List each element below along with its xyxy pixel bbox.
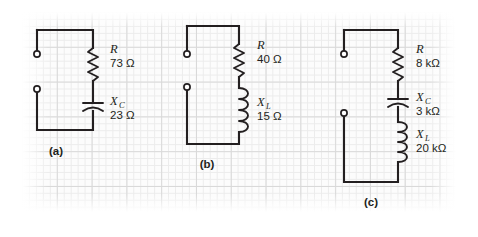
resistor-zigzag-icon xyxy=(393,48,403,81)
resistor-zigzag-icon xyxy=(234,44,244,77)
circuit-a-top-wire xyxy=(37,30,93,48)
circuit-a-capacitor-value: 23 Ω xyxy=(110,109,135,121)
circuit-a-panel-label: (a) xyxy=(49,145,63,157)
circuit-c-terminal-top[interactable] xyxy=(341,51,347,57)
capacitor-curved-icon xyxy=(388,99,408,107)
circuit-c-resistor-symbol: R xyxy=(415,42,424,56)
circuit-a-resistor-value: 73 Ω xyxy=(110,57,135,69)
circuit-b-resistor-value: 40 Ω xyxy=(257,53,282,65)
circuit-c-resistor-value: 8 kΩ xyxy=(416,57,440,69)
circuit-b-terminal-top[interactable] xyxy=(184,51,190,57)
circuit-a-resistor-symbol: R xyxy=(109,42,118,56)
circuit-c-inductor-value: 20 kΩ xyxy=(416,142,447,154)
circuit-c: R 8 kΩ X C 3 kΩ X L 20 kΩ (c) xyxy=(341,30,447,208)
inductor-coil-icon xyxy=(398,122,407,162)
circuit-c-capacitor-value: 3 kΩ xyxy=(416,105,440,117)
capacitor-curved-icon xyxy=(83,103,103,111)
circuit-b-panel-label: (b) xyxy=(200,158,215,170)
circuit-b-inductor-symbol: X xyxy=(256,95,266,109)
circuit-c-inductor-symbol: X xyxy=(415,127,425,141)
resistor-zigzag-icon xyxy=(88,48,98,81)
circuit-b-bottom-wire xyxy=(187,90,239,144)
circuit-c-capacitor-symbol: X xyxy=(415,90,425,104)
circuit-a: R 73 Ω X C 23 Ω (a) xyxy=(34,30,135,157)
circuit-b: R 40 Ω X L 15 Ω (b) xyxy=(184,26,282,170)
circuit-a-terminal-bottom[interactable] xyxy=(34,86,40,92)
circuit-b-top-wire xyxy=(187,26,239,44)
circuit-c-top-wire xyxy=(344,30,398,48)
circuit-c-bottom-wire xyxy=(344,116,398,182)
circuit-c-terminal-bottom[interactable] xyxy=(341,110,347,116)
circuit-c-panel-label: (c) xyxy=(364,196,378,208)
circuit-a-capacitor-symbol: X xyxy=(109,94,119,108)
inductor-coil-icon xyxy=(239,88,248,132)
circuit-drawing-layer: R 73 Ω X C 23 Ω (a) xyxy=(0,0,478,237)
circuit-a-terminal-top[interactable] xyxy=(34,51,40,57)
circuit-figure: R 73 Ω X C 23 Ω (a) xyxy=(0,0,478,237)
circuit-b-inductor-value: 15 Ω xyxy=(257,110,282,122)
circuit-b-resistor-symbol: R xyxy=(256,38,265,52)
circuit-b-terminal-bottom[interactable] xyxy=(184,84,190,90)
